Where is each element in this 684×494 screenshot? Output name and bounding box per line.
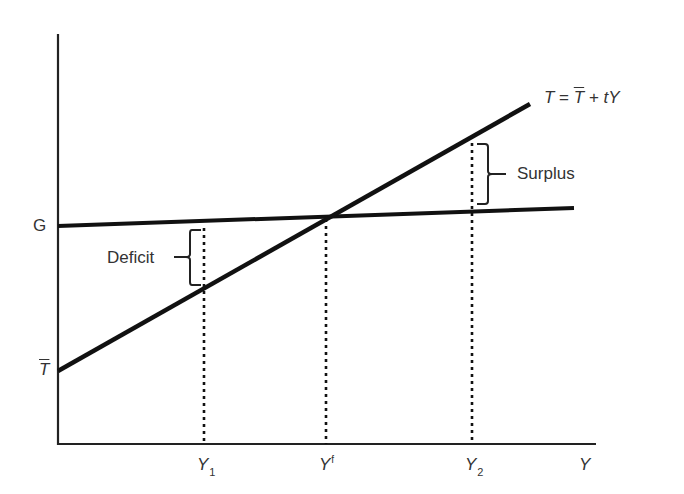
eq-tbar: T [574,88,584,107]
g-axis-label: G [33,217,46,234]
x-axis-label: Y [579,456,590,473]
t-bar-axis-label: T [39,361,49,378]
yf-base: Y [319,455,330,474]
x-tick-y2: Y2 [465,456,483,473]
eq-t: T [544,88,554,107]
deficit-bracket [186,230,201,285]
x-tick-yf: Yf [319,456,334,473]
tax-function-equation: T = T + tY [544,89,620,106]
budget-diagram [0,0,684,494]
y1-base: Y [197,455,208,474]
surplus-bracket [477,144,492,204]
surplus-label: Surplus [517,165,575,182]
eq-equals: = [554,88,573,107]
yf-sup: f [331,454,334,465]
eq-ty: tY [604,88,620,107]
y2-base: Y [465,455,476,474]
y2-sub: 2 [477,466,483,478]
deficit-label: Deficit [107,249,154,266]
tax-function-line [58,104,530,371]
x-tick-y1: Y1 [197,456,215,473]
eq-plus: + [584,88,603,107]
y1-sub: 1 [209,466,215,478]
